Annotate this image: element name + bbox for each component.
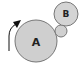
label-a: A	[32, 36, 41, 49]
circle-b: B	[54, 2, 78, 26]
circle-a: A	[15, 20, 57, 62]
label-b: B	[63, 9, 70, 19]
gear-diagram: A B	[0, 0, 83, 63]
circle-idler	[55, 25, 67, 37]
